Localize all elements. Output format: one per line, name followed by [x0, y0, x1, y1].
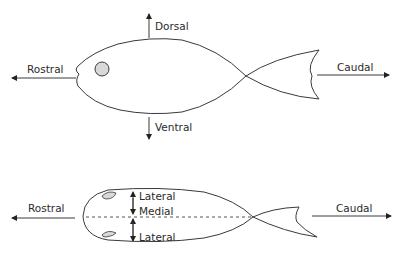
- anatomical-directions-diagram: Dorsal Ventral Rostral Caudal Lateral Me…: [0, 0, 399, 258]
- right-eye-icon: [102, 231, 116, 237]
- caudal-label: Caudal: [337, 61, 373, 73]
- fish-tail-outline-dorsal: [253, 207, 317, 237]
- rostral-label: Rostral: [27, 63, 64, 75]
- caudal-label-dorsal: Caudal: [336, 202, 372, 214]
- rostral-label-dorsal: Rostral: [28, 202, 65, 214]
- left-eye-icon: [102, 192, 116, 199]
- ventral-label: Ventral: [155, 121, 192, 133]
- fish-tail-outline: [246, 50, 319, 99]
- lateral-bottom-label: Lateral: [139, 231, 176, 243]
- dorsal-view-fish: Lateral Medial Lateral Rostral Caudal: [12, 188, 391, 243]
- medial-label: Medial: [139, 205, 173, 217]
- eye-icon: [95, 62, 109, 76]
- dorsal-label: Dorsal: [155, 20, 189, 32]
- lateral-view-fish: Dorsal Ventral Rostral Caudal: [12, 14, 389, 139]
- lateral-top-label: Lateral: [139, 190, 176, 202]
